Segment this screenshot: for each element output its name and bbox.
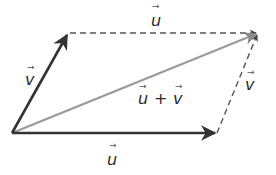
arrow-accent: → [152,1,160,11]
label-bottom-u: u [107,150,117,169]
label-sum: → u + → v [138,81,183,108]
label-right-v: v [245,75,255,94]
label-sum-u: u [138,89,148,108]
label-sum-v: v [173,89,183,108]
arrow-accent: → [109,140,117,150]
label-sum-plus: + [154,89,167,108]
vector-v [12,35,67,133]
resultant-vector-u-plus-v [12,34,256,133]
label-left-v: v [25,70,35,89]
label-top-u: u [151,11,161,30]
vector-parallelogram-diagram: → u → v → v → u → u + → v [0,0,276,175]
